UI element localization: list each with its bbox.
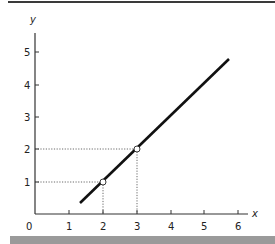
x-tick-label: 4 [168,221,174,232]
y-ticks: 1 2 3 4 5 [24,47,39,188]
x-tick-label: 5 [201,221,207,232]
x-tick-label: 1 [66,221,72,232]
x-axis-label: x [251,208,258,219]
bottom-bar [10,236,275,244]
guide-lines [35,149,137,214]
x-tick-label: 2 [100,221,106,232]
origin-label: 0 [26,221,32,232]
chart: y x 0 1 2 3 4 5 1 2 3 4 5 6 [0,0,275,244]
y-axis-label: y [29,14,37,25]
y-tick-label: 1 [24,177,30,188]
y-tick-label: 5 [24,47,30,58]
y-tick-label: 3 [24,112,30,123]
point-2-1 [100,179,106,185]
point-3-2 [134,146,140,152]
x-tick-label: 6 [235,221,241,232]
y-tick-label: 2 [24,144,30,155]
x-tick-label: 3 [134,221,140,232]
x-ticks: 1 2 3 4 5 6 [66,210,241,232]
y-tick-label: 4 [24,80,30,91]
